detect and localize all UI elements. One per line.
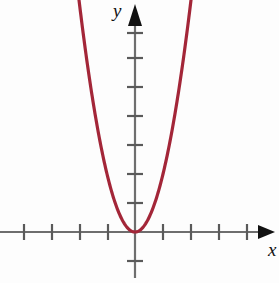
x-axis-label: x xyxy=(268,240,276,259)
parabola-graph-figure: y x xyxy=(0,0,279,283)
y-axis-arrowhead xyxy=(128,4,142,26)
graph-canvas xyxy=(0,0,279,283)
x-axis-arrowhead xyxy=(258,225,275,239)
y-axis-label: y xyxy=(113,1,121,20)
y-axis-group xyxy=(127,4,143,278)
